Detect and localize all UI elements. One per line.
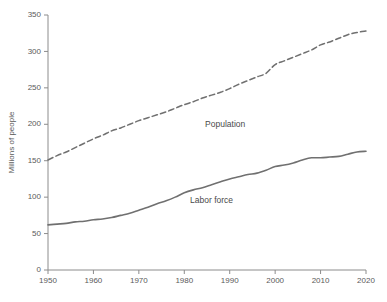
x-tick-label: 2020 <box>357 276 375 285</box>
x-tick-label: 1950 <box>39 276 57 285</box>
x-tick-label: 1960 <box>85 276 103 285</box>
y-axis-group: 050100150200250300350 Millions of people <box>7 10 48 274</box>
series-annotation-labels: PopulationLabor force <box>190 119 245 205</box>
y-tick-label: 150 <box>28 156 42 165</box>
series-label-population: Population <box>205 119 245 129</box>
y-tick-label: 300 <box>28 47 42 56</box>
x-tick-label: 1970 <box>130 276 148 285</box>
series-label-labor-force: Labor force <box>190 195 233 205</box>
series-line-labor-force <box>48 151 366 225</box>
y-tick-label: 50 <box>32 229 41 238</box>
series-line-population <box>48 31 366 160</box>
population-labor-force-line-chart: 050100150200250300350 Millions of people… <box>0 0 387 302</box>
y-tick-label: 250 <box>28 83 42 92</box>
x-tick-label: 1980 <box>175 276 193 285</box>
x-tick-label: 1990 <box>221 276 239 285</box>
x-tick-label: 2000 <box>266 276 284 285</box>
y-axis-title: Millions of people <box>7 111 16 173</box>
x-axis-group: 19501960197019801990200020102020 <box>39 270 375 285</box>
y-tick-label: 350 <box>28 10 42 19</box>
y-axis-ticks: 050100150200250300350 <box>28 10 48 274</box>
y-tick-label: 0 <box>37 265 42 274</box>
y-tick-label: 200 <box>28 119 42 128</box>
x-axis-ticks: 19501960197019801990200020102020 <box>39 270 375 285</box>
x-tick-label: 2010 <box>312 276 330 285</box>
y-tick-label: 100 <box>28 192 42 201</box>
chart-plot-area: 050100150200250300350 Millions of people… <box>0 0 387 302</box>
